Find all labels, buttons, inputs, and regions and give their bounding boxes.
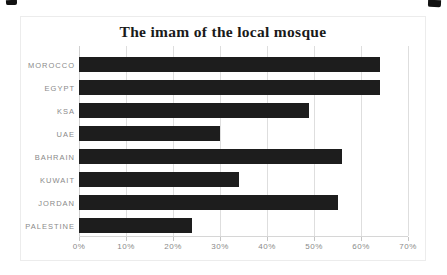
bar-kuwait	[79, 172, 239, 187]
tick-40	[267, 237, 268, 241]
bar-bahrain	[79, 149, 342, 164]
bar-morocco	[79, 57, 380, 72]
bar-uae	[79, 126, 220, 141]
category-label-uae: UAE	[25, 130, 75, 139]
tick-60	[361, 237, 362, 241]
category-label-ksa: KSA	[25, 107, 75, 116]
bar-chart: The imam of the local mosque MOROCCOEGYP…	[20, 16, 426, 261]
tick-70	[408, 237, 409, 241]
bar-egypt	[79, 80, 380, 95]
bar-ksa	[79, 103, 309, 118]
x-tick-label-50: 50%	[294, 242, 334, 251]
scan-artifact-top-left	[6, 0, 17, 5]
scan-artifact-top-right	[428, 0, 441, 7]
x-tick-label-20: 20%	[153, 242, 193, 251]
tick-50	[314, 237, 315, 241]
x-tick-label-10: 10%	[106, 242, 146, 251]
tick-10	[126, 237, 127, 241]
x-tick-label-30: 30%	[200, 242, 240, 251]
category-label-bahrain: BAHRAIN	[25, 153, 75, 162]
x-tick-label-0: 0%	[59, 242, 99, 251]
category-label-palestine: PALESTINE	[25, 222, 75, 231]
gridline-70	[408, 46, 409, 236]
gridline-60	[361, 46, 362, 236]
category-label-kuwait: KUWAIT	[25, 176, 75, 185]
plot-area	[79, 46, 408, 237]
category-label-egypt: EGYPT	[25, 84, 75, 93]
x-tick-label-60: 60%	[341, 242, 381, 251]
category-label-jordan: JORDAN	[25, 199, 75, 208]
figure-page: The imam of the local mosque MOROCCOEGYP…	[0, 0, 447, 275]
chart-title: The imam of the local mosque	[21, 23, 425, 41]
tick-0	[79, 237, 80, 241]
bar-palestine	[79, 218, 192, 233]
x-tick-label-70: 70%	[388, 242, 428, 251]
tick-30	[220, 237, 221, 241]
x-tick-label-40: 40%	[247, 242, 287, 251]
bar-jordan	[79, 195, 338, 210]
tick-20	[173, 237, 174, 241]
category-label-morocco: MOROCCO	[25, 61, 75, 70]
